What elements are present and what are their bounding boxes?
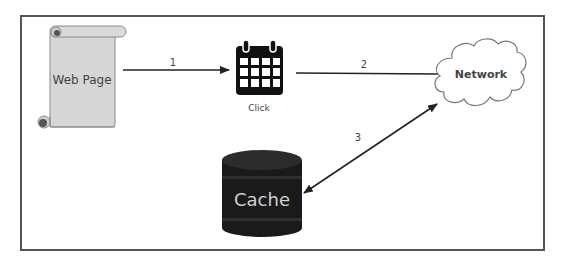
edge-2: 2 [296,59,438,74]
edge-1: 1 [123,57,229,70]
edge-1-label: 1 [170,57,176,68]
click-label: Click [248,103,270,113]
web-page-node: Web Page [38,26,126,128]
network-node: Network [435,39,526,106]
cache-node: Cache [222,150,302,237]
edge-2-label: 2 [361,59,367,70]
network-label: Network [455,68,508,81]
web-page-label: Web Page [52,73,111,87]
edge-3-label: 3 [355,132,361,143]
cache-label: Cache [234,189,290,210]
click-node: Click [236,40,283,113]
edge-3: 3 [304,104,437,193]
calendar-icon [236,40,283,95]
